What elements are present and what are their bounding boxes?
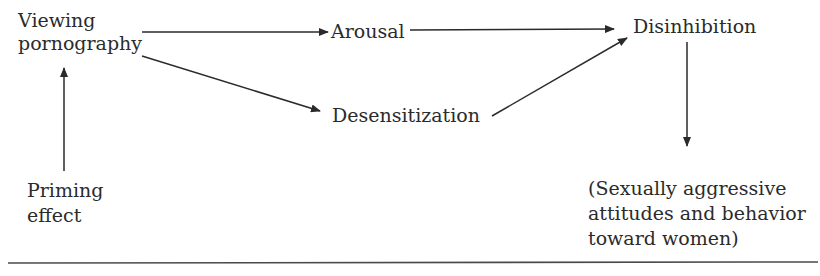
arrow-arousal-to-disinhibition (410, 29, 614, 30)
node-arousal: Arousal (331, 20, 405, 43)
node-outcome-line1: (Sexually aggressive (588, 176, 806, 201)
node-viewing-line1: Viewing (18, 9, 142, 32)
arrow-viewing-to-desensitization (142, 56, 320, 111)
node-outcome: (Sexually aggressive attitudes and behav… (588, 176, 806, 251)
node-viewing-pornography: Viewing pornography (18, 9, 142, 55)
bottom-rule (8, 262, 818, 263)
node-priming-line2: effect (27, 203, 103, 228)
node-outcome-line2: attitudes and behavior (588, 201, 806, 226)
node-desensitization: Desensitization (332, 104, 480, 127)
node-viewing-line2: pornography (18, 32, 142, 55)
node-outcome-line3: toward women) (588, 226, 806, 251)
node-priming-effect: Priming effect (27, 178, 103, 228)
arrow-desensitization-to-disinhibition (492, 38, 627, 116)
node-disinhibition: Disinhibition (633, 15, 756, 38)
node-priming-line1: Priming (27, 178, 103, 203)
